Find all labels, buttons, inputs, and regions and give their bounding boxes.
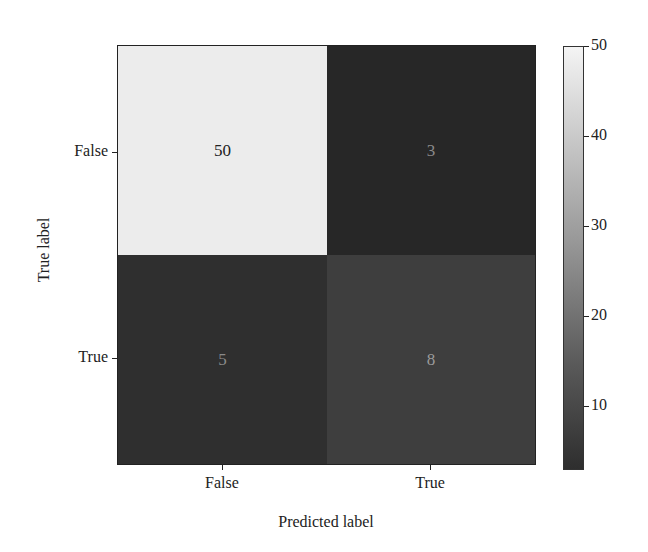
cell-value: 3 bbox=[427, 141, 436, 161]
cell-false-true: 3 bbox=[327, 46, 535, 255]
colorbar-tick bbox=[584, 46, 589, 47]
x-tick-label-false: False bbox=[182, 474, 262, 492]
colorbar-tick bbox=[584, 226, 589, 227]
colorbar-tick bbox=[584, 406, 589, 407]
x-tick-mark bbox=[222, 465, 223, 470]
y-tick-label-true: True bbox=[28, 348, 108, 366]
colorbar-label-50: 50 bbox=[591, 36, 607, 54]
colorbar bbox=[563, 46, 584, 470]
cell-true-true: 8 bbox=[327, 255, 535, 464]
y-tick-mark bbox=[112, 152, 117, 153]
confusion-matrix: 50 3 5 8 bbox=[117, 45, 536, 465]
colorbar-label-20: 20 bbox=[591, 306, 607, 324]
x-axis-title: Predicted label bbox=[278, 513, 374, 531]
x-tick-mark bbox=[430, 465, 431, 470]
cell-false-false: 50 bbox=[118, 46, 327, 255]
y-tick-label-false: False bbox=[28, 142, 108, 160]
cell-value: 50 bbox=[214, 141, 231, 161]
cell-value: 5 bbox=[218, 350, 227, 370]
colorbar-tick bbox=[584, 136, 589, 137]
y-axis-title: True label bbox=[35, 218, 53, 283]
colorbar-label-10: 10 bbox=[591, 396, 607, 414]
colorbar-label-40: 40 bbox=[591, 126, 607, 144]
cell-true-false: 5 bbox=[118, 255, 327, 464]
colorbar-label-30: 30 bbox=[591, 216, 607, 234]
cell-value: 8 bbox=[427, 350, 436, 370]
x-tick-label-true: True bbox=[390, 474, 470, 492]
y-tick-mark bbox=[112, 358, 117, 359]
colorbar-tick bbox=[584, 316, 589, 317]
